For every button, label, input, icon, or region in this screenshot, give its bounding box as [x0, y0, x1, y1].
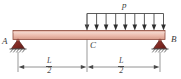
dimension-left-denominator: 2 [46, 67, 52, 75]
label-point-a: A [2, 37, 8, 46]
label-load-p: p [122, 1, 127, 10]
load-arrow [104, 14, 109, 31]
dimension-label-right-span: L 2 [118, 57, 124, 75]
load-arrow [113, 14, 118, 31]
label-point-c: C [90, 41, 96, 50]
load-arrow [161, 14, 166, 31]
dimension-right-numerator: L [118, 57, 124, 65]
dimension-left-span [19, 65, 87, 69]
support-b-hatching [152, 49, 167, 52]
load-arrow [133, 14, 138, 31]
load-arrow [142, 14, 147, 31]
support-b-pin [152, 39, 169, 52]
support-a-hatching [10, 49, 25, 52]
dimension-left-numerator: L [46, 57, 52, 65]
beam-member [13, 31, 165, 40]
label-point-b: B [171, 35, 177, 44]
dimension-label-left-span: L 2 [46, 57, 52, 75]
beam-diagram: A B C p L 2 L 2 [0, 0, 181, 79]
distributed-load-group [85, 14, 166, 31]
dimension-right-denominator: 2 [118, 67, 124, 75]
load-arrow [123, 14, 128, 31]
support-a-pin [10, 39, 27, 52]
load-arrow [152, 14, 157, 31]
dimension-extension-lines [18, 52, 160, 72]
load-arrow [94, 14, 99, 31]
